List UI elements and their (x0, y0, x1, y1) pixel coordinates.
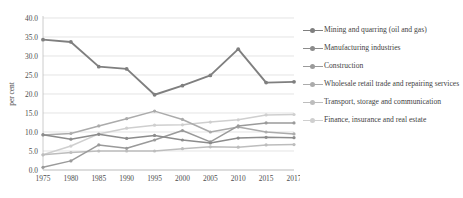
x-axis-tick-label: 1985 (91, 174, 106, 183)
series-data-point (125, 127, 128, 130)
series-data-point (153, 124, 156, 127)
series-data-point (97, 124, 100, 127)
legend-item-label: Construction (324, 60, 363, 70)
series-data-point (292, 80, 296, 84)
series-data-point (97, 133, 100, 136)
y-axis-tick-label: 15.0 (25, 109, 38, 118)
axis-lines (43, 16, 294, 170)
series-data-point (41, 38, 45, 42)
series-data-point (181, 147, 184, 150)
y-axis-title: per cent (7, 81, 16, 106)
y-axis-tick-label: 20.0 (25, 90, 38, 99)
x-axis-tick-labels: 1975198019851990199520002005201020152017 (36, 174, 300, 183)
line-chart: 0.05.010.015.020.025.030.035.040.0 19751… (0, 0, 463, 198)
series-data-point (236, 47, 240, 51)
series-data-point (153, 93, 157, 97)
legend-item[interactable]: Transport, storage and communication (303, 96, 463, 108)
series-data-point (265, 136, 268, 139)
series-data-point (97, 65, 101, 69)
series-data-point (265, 121, 268, 124)
legend-dot-swatch (310, 64, 315, 69)
series-data-point (292, 121, 295, 124)
gridlines (43, 18, 294, 170)
series-data-point (181, 118, 184, 121)
legend-item-label: Manufacturing industries (324, 42, 401, 52)
y-axis-tick-label: 10.0 (25, 128, 38, 137)
x-axis-tick-label: 2010 (231, 174, 246, 183)
x-axis-tick-label: 2015 (259, 174, 274, 183)
series-data-point (125, 137, 128, 140)
series-data-point (125, 67, 129, 71)
legend-item-label: Wholesale retail trade and repairing ser… (324, 78, 459, 88)
series-data-point (265, 113, 268, 116)
series-data-point (237, 124, 240, 127)
data-series (41, 38, 296, 169)
y-axis-tick-label: 25.0 (25, 71, 38, 80)
y-axis-tick-label: 40.0 (25, 14, 38, 23)
x-axis-tick-label: 1980 (63, 174, 78, 183)
series-data-point (97, 143, 100, 146)
series-data-point (69, 138, 72, 141)
legend-item[interactable]: Mining and quarring (oil and gas) (303, 24, 463, 36)
legend-marker-icon (303, 97, 323, 108)
series-data-point (125, 117, 128, 120)
series-data-point (181, 84, 185, 88)
x-axis-tick-label: 2000 (175, 174, 190, 183)
series-line (43, 145, 294, 155)
series-data-point (69, 40, 73, 44)
series-data-point (264, 81, 268, 85)
series-data-point (69, 151, 72, 154)
series-data-point (209, 121, 212, 124)
y-axis-tick-label: 5.0 (29, 147, 39, 156)
series-data-point (237, 146, 240, 149)
series-data-point (265, 130, 268, 133)
legend-marker-icon (303, 79, 323, 90)
legend-item[interactable]: Finance, insurance and real estate (303, 114, 463, 126)
legend-dot-swatch (310, 118, 315, 123)
series-data-point (292, 113, 295, 116)
legend-marker-icon (303, 43, 323, 54)
series-data-point (153, 110, 156, 113)
legend-item-label: Finance, insurance and real estate (324, 114, 426, 124)
legend-item[interactable]: Construction (303, 60, 463, 72)
legend-dot-swatch (310, 46, 315, 51)
series-data-point (153, 138, 156, 141)
series-data-point (153, 134, 156, 137)
y-axis-title-text: per cent (7, 81, 16, 106)
x-axis-tick-label: 1975 (36, 174, 51, 183)
series-data-point (181, 129, 184, 132)
x-axis-tick-label: 1995 (147, 174, 162, 183)
legend-marker-icon (303, 25, 323, 36)
series-data-point (292, 136, 295, 139)
y-axis-tick-label: 35.0 (25, 33, 38, 42)
series-data-point (292, 143, 295, 146)
series-data-point (181, 123, 184, 126)
chart-legend: Mining and quarring (oil and gas)Manufac… (303, 24, 463, 132)
series-data-point (69, 132, 72, 135)
legend-marker-icon (303, 115, 323, 126)
y-axis-tick-labels: 0.05.010.015.020.025.030.035.040.0 (25, 14, 38, 175)
legend-dot-swatch (310, 28, 315, 33)
series-data-point (41, 133, 44, 136)
series-data-point (209, 141, 212, 144)
legend-item-label: Transport, storage and communication (324, 96, 441, 106)
series-data-point (125, 147, 128, 150)
series-data-point (41, 153, 44, 156)
x-axis-tick-label: 2017 (287, 174, 300, 183)
legend-item[interactable]: Manufacturing industries (303, 42, 463, 54)
y-axis-tick-label: 30.0 (25, 52, 38, 61)
series-data-point (69, 159, 72, 162)
x-axis-tick-label: 2005 (203, 174, 218, 183)
series-data-point (237, 136, 240, 139)
series-data-point (292, 132, 295, 135)
legend-item-label: Mining and quarring (oil and gas) (324, 24, 427, 34)
series-line (43, 111, 294, 135)
series-data-point (153, 149, 156, 152)
series-data-point (69, 144, 72, 147)
legend-item[interactable]: Wholesale retail trade and repairing ser… (303, 78, 463, 90)
series-data-point (237, 118, 240, 121)
plot-svg: 0.05.010.015.020.025.030.035.040.0 19751… (0, 0, 300, 198)
series-data-point (209, 145, 212, 148)
legend-marker-icon (303, 61, 323, 72)
series-line (43, 40, 294, 95)
